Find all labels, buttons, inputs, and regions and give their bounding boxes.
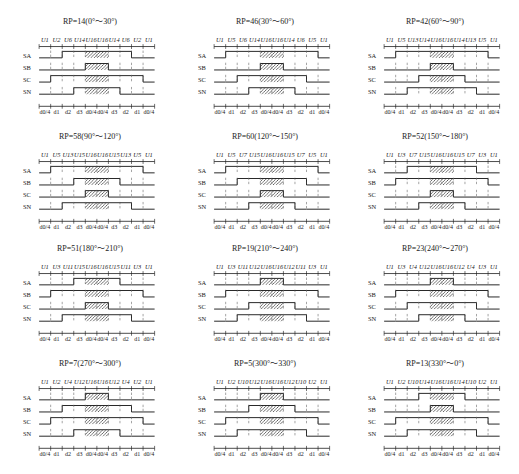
timing-panel: RP=14(0°～30°)U1U2U6U14U16U16U14U6U2U1SAS… bbox=[5, 3, 175, 108]
svg-text:d1: d1 bbox=[479, 224, 485, 230]
svg-text:U1: U1 bbox=[386, 378, 394, 385]
svg-text:U15: U15 bbox=[74, 151, 86, 158]
svg-text:U4: U4 bbox=[64, 378, 73, 385]
svg-text:U16: U16 bbox=[431, 378, 443, 385]
svg-text:U16: U16 bbox=[97, 263, 109, 270]
svg-text:SC: SC bbox=[368, 303, 376, 310]
svg-text:U16: U16 bbox=[97, 378, 109, 385]
svg-text:SC: SC bbox=[23, 76, 31, 83]
svg-text:SC: SC bbox=[198, 418, 206, 425]
svg-text:d0/4: d0/4 bbox=[272, 336, 283, 342]
svg-text:SB: SB bbox=[23, 64, 31, 71]
svg-text:U15: U15 bbox=[109, 151, 121, 158]
svg-text:SA: SA bbox=[198, 279, 207, 286]
svg-text:d1: d1 bbox=[228, 109, 234, 115]
svg-text:d0/4: d0/4 bbox=[488, 336, 499, 342]
svg-text:U15: U15 bbox=[109, 263, 121, 270]
svg-text:U15: U15 bbox=[74, 263, 86, 270]
svg-text:d3: d3 bbox=[456, 451, 462, 457]
svg-text:SB: SB bbox=[368, 179, 376, 186]
svg-text:U1: U1 bbox=[320, 36, 328, 43]
svg-text:U7: U7 bbox=[239, 151, 248, 158]
svg-text:SA: SA bbox=[368, 279, 377, 286]
svg-text:d1: d1 bbox=[134, 109, 140, 115]
svg-text:U13: U13 bbox=[407, 36, 418, 43]
svg-text:d0/4: d0/4 bbox=[442, 451, 453, 457]
svg-text:U3: U3 bbox=[133, 263, 141, 270]
svg-text:d0/4: d0/4 bbox=[97, 224, 108, 230]
svg-text:SB: SB bbox=[368, 406, 376, 413]
svg-text:U1: U1 bbox=[490, 151, 498, 158]
svg-text:U1: U1 bbox=[320, 378, 328, 385]
svg-text:U16: U16 bbox=[431, 36, 443, 43]
timing-panel: RP=42(60°～90°)U1U5U13U14U16U16U14U13U5U1… bbox=[350, 3, 519, 108]
svg-text:d0/4: d0/4 bbox=[318, 109, 329, 115]
svg-text:U2: U2 bbox=[52, 378, 61, 385]
svg-text:d3: d3 bbox=[422, 451, 428, 457]
svg-text:SB: SB bbox=[23, 406, 31, 413]
svg-text:d1: d1 bbox=[134, 224, 140, 230]
svg-text:U16: U16 bbox=[272, 263, 284, 270]
svg-text:SN: SN bbox=[198, 88, 207, 95]
svg-text:SC: SC bbox=[198, 76, 206, 83]
svg-text:d2: d2 bbox=[65, 451, 71, 457]
svg-text:U14: U14 bbox=[74, 36, 86, 43]
svg-text:U1: U1 bbox=[41, 263, 49, 270]
svg-text:U11: U11 bbox=[238, 263, 249, 270]
svg-text:U16: U16 bbox=[272, 36, 284, 43]
svg-text:U16: U16 bbox=[272, 151, 284, 158]
svg-text:U1: U1 bbox=[145, 36, 153, 43]
svg-text:d2: d2 bbox=[410, 336, 416, 342]
svg-text:SB: SB bbox=[23, 291, 31, 298]
svg-text:U1: U1 bbox=[490, 263, 498, 270]
svg-text:U1: U1 bbox=[320, 151, 328, 158]
svg-text:d1: d1 bbox=[398, 224, 404, 230]
svg-text:U13: U13 bbox=[62, 151, 73, 158]
svg-text:d1: d1 bbox=[53, 451, 59, 457]
svg-text:U1: U1 bbox=[41, 36, 49, 43]
svg-text:SA: SA bbox=[23, 279, 32, 286]
svg-text:d2: d2 bbox=[240, 224, 246, 230]
svg-text:d3: d3 bbox=[252, 224, 258, 230]
svg-text:U12: U12 bbox=[109, 378, 121, 385]
svg-text:SN: SN bbox=[23, 430, 32, 437]
svg-text:d3: d3 bbox=[286, 336, 292, 342]
svg-text:SA: SA bbox=[368, 167, 377, 174]
svg-text:d0/4: d0/4 bbox=[261, 224, 272, 230]
svg-text:SN: SN bbox=[368, 430, 377, 437]
svg-text:U16: U16 bbox=[86, 151, 98, 158]
svg-text:U16: U16 bbox=[261, 263, 273, 270]
svg-text:SC: SC bbox=[23, 191, 31, 198]
svg-text:U3: U3 bbox=[308, 263, 316, 270]
svg-text:d3: d3 bbox=[111, 224, 117, 230]
svg-text:U3: U3 bbox=[397, 263, 405, 270]
svg-text:SN: SN bbox=[368, 315, 377, 322]
svg-text:U1: U1 bbox=[490, 378, 498, 385]
svg-text:U12: U12 bbox=[284, 378, 296, 385]
svg-text:U14: U14 bbox=[454, 36, 466, 43]
svg-text:d0/4: d0/4 bbox=[40, 109, 51, 115]
svg-text:U16: U16 bbox=[442, 378, 454, 385]
svg-text:d0/4: d0/4 bbox=[40, 451, 51, 457]
svg-text:SC: SC bbox=[368, 76, 376, 83]
svg-text:U5: U5 bbox=[133, 151, 142, 158]
svg-text:d2: d2 bbox=[468, 109, 474, 115]
svg-text:SA: SA bbox=[198, 394, 207, 401]
svg-text:U16: U16 bbox=[272, 378, 284, 385]
svg-text:SB: SB bbox=[198, 64, 206, 71]
svg-text:U2: U2 bbox=[308, 378, 317, 385]
svg-text:SB: SB bbox=[198, 179, 206, 186]
svg-text:U12: U12 bbox=[284, 263, 296, 270]
svg-text:d0/4: d0/4 bbox=[261, 451, 272, 457]
svg-text:d0/4: d0/4 bbox=[143, 224, 154, 230]
svg-text:U2: U2 bbox=[397, 378, 406, 385]
svg-text:d0/4: d0/4 bbox=[97, 451, 108, 457]
svg-text:U13: U13 bbox=[120, 151, 131, 158]
svg-text:d3: d3 bbox=[286, 224, 292, 230]
svg-text:U7: U7 bbox=[467, 151, 476, 158]
svg-text:U12: U12 bbox=[249, 378, 261, 385]
svg-text:d0/4: d0/4 bbox=[215, 224, 226, 230]
svg-text:d1: d1 bbox=[398, 109, 404, 115]
svg-text:d0/4: d0/4 bbox=[272, 451, 283, 457]
svg-text:U10: U10 bbox=[407, 378, 419, 385]
